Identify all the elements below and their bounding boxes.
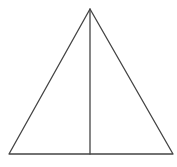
triangle-diagram [0,0,177,167]
isosceles-triangle [9,9,173,154]
